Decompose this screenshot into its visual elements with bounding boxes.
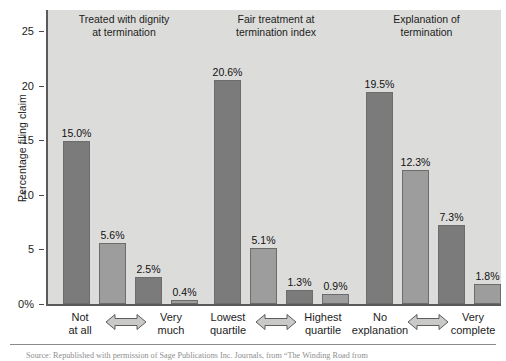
y-tick-label-5: 25 bbox=[4, 26, 34, 37]
bar-label-g1-0: 20.6% bbox=[204, 67, 251, 78]
y-tick-label-2: 10 bbox=[4, 190, 34, 201]
cat-label-group1-right: Highest quartile bbox=[295, 311, 351, 336]
cat-label-group0-left-line1: Not bbox=[52, 311, 108, 324]
bar-g1-0 bbox=[214, 80, 241, 304]
group-heading-0: Treated with dignity at termination bbox=[48, 13, 200, 38]
double-arrow-icon-group2 bbox=[408, 313, 448, 335]
bar-g0-1 bbox=[99, 243, 126, 304]
bar-label-g2-0: 19.5% bbox=[356, 79, 403, 90]
y-tick-mark-1 bbox=[39, 249, 44, 250]
bar-label-g2-3: 1.8% bbox=[464, 271, 506, 282]
y-tick-label-1: 5 bbox=[4, 244, 34, 255]
cat-label-group2-right-line2: complete bbox=[443, 324, 503, 337]
bar-g2-1 bbox=[402, 170, 429, 304]
source-divider bbox=[10, 344, 496, 345]
cat-label-group1-right-line1: Highest bbox=[295, 311, 351, 324]
cat-label-group2-right: Very complete bbox=[443, 311, 503, 336]
y-tick-mark-4 bbox=[39, 86, 44, 87]
y-tick-label-3: 15 bbox=[4, 135, 34, 146]
group-heading-2: Explanation of termination bbox=[352, 13, 501, 38]
cat-label-group0-left-line2: at all bbox=[52, 324, 108, 337]
bar-g2-0 bbox=[366, 92, 393, 304]
group-heading-1-line1: Fair treatment at bbox=[200, 13, 352, 26]
cat-label-group0-right: Very much bbox=[143, 311, 199, 336]
cat-label-group1-left-line1: Lowest bbox=[200, 311, 256, 324]
cat-label-group0-left: Not at all bbox=[52, 311, 108, 336]
group-heading-1: Fair treatment at termination index bbox=[200, 13, 352, 38]
bar-g1-1 bbox=[250, 248, 277, 304]
group-heading-0-line2: at termination bbox=[48, 26, 200, 39]
bar-g1-2 bbox=[286, 290, 313, 304]
group-heading-2-line1: Explanation of bbox=[352, 13, 501, 26]
bar-label-g0-0: 15.0% bbox=[53, 128, 100, 139]
x-axis-line bbox=[46, 304, 501, 306]
y-tick-label-0: 0% bbox=[4, 299, 34, 310]
y-tick-mark-3 bbox=[39, 140, 44, 141]
group-heading-2-line2: termination bbox=[352, 26, 501, 39]
cat-label-group2-right-line1: Very bbox=[443, 311, 503, 324]
group-heading-0-line1: Treated with dignity bbox=[48, 13, 200, 26]
bar-g2-2 bbox=[438, 225, 465, 304]
cat-label-group1-right-line2: quartile bbox=[295, 324, 351, 337]
bar-label-g1-3: 0.9% bbox=[312, 281, 359, 292]
bar-g2-3 bbox=[474, 284, 501, 304]
cat-label-group0-right-line1: Very bbox=[143, 311, 199, 324]
cat-label-group2-left: No explanation bbox=[346, 311, 414, 336]
bar-g0-3 bbox=[171, 300, 198, 304]
cat-label-group2-left-line1: No bbox=[346, 311, 414, 324]
y-tick-mark-5 bbox=[39, 31, 44, 32]
bar-label-g0-1: 5.6% bbox=[89, 230, 136, 241]
source-citation: Source: Republished with permission of S… bbox=[26, 351, 496, 361]
double-arrow-icon-group0 bbox=[106, 313, 146, 335]
bar-label-g2-2: 7.3% bbox=[428, 212, 475, 223]
cat-label-group0-right-line2: much bbox=[143, 324, 199, 337]
y-axis-line bbox=[46, 10, 48, 305]
y-tick-mark-2 bbox=[39, 195, 44, 196]
cat-label-group2-left-line2: explanation bbox=[346, 324, 414, 337]
bar-g0-0 bbox=[63, 141, 90, 304]
bar-g1-3 bbox=[322, 294, 349, 304]
bar-label-g2-1: 12.3% bbox=[392, 157, 439, 168]
double-arrow-icon-group1 bbox=[256, 313, 296, 335]
bar-label-g0-3: 0.4% bbox=[161, 287, 208, 298]
y-tick-label-4: 20 bbox=[4, 81, 34, 92]
cat-label-group1-left: Lowest quartile bbox=[200, 311, 256, 336]
bar-label-g1-1: 5.1% bbox=[240, 235, 287, 246]
group-heading-1-line2: termination index bbox=[200, 26, 352, 39]
cat-label-group1-left-line2: quartile bbox=[200, 324, 256, 337]
bar-g0-2 bbox=[135, 277, 162, 304]
y-tick-mark-0 bbox=[39, 304, 44, 305]
bar-chart-figure: Percentage filing claim 0%510152025 Trea… bbox=[0, 0, 506, 361]
bar-label-g0-2: 2.5% bbox=[125, 264, 172, 275]
